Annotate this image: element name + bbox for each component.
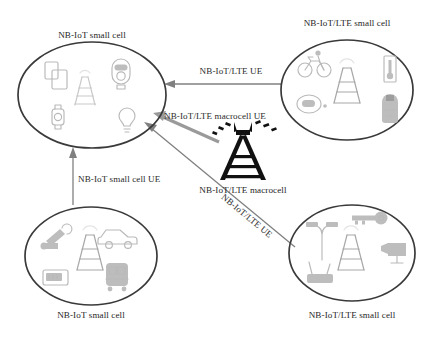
thermometer-icon	[384, 56, 396, 82]
cell-label-bottom-left: NB-IoT small cell	[57, 310, 125, 320]
security-camera-icon	[381, 243, 406, 263]
link-label-nb-iot-lte-ue-diagonal: NB-IoT/LTE UE	[220, 192, 275, 240]
car-key-fob-icon	[297, 95, 327, 113]
key-icon	[352, 212, 388, 225]
cell-label-top-right: NB-IoT/LTE small cell	[304, 18, 391, 28]
cell-tower-icon	[77, 226, 103, 270]
cell-tower-icon	[334, 59, 360, 103]
cell-top-right[interactable]: NB-IoT/LTE small cell	[281, 18, 413, 140]
cell-boundary-ellipse	[281, 40, 413, 140]
cell-boundary-ellipse	[25, 207, 157, 305]
parking-meter-icon	[112, 59, 130, 89]
light-bulb-icon	[119, 108, 135, 132]
street-lamp-icon	[306, 222, 338, 260]
train-icon	[106, 263, 128, 291]
cell-label-top-left: NB-IoT small cell	[58, 30, 126, 40]
cell-label-bottom-right: NB-IoT/LTE small cell	[309, 310, 396, 320]
link-macrocell-to-top-left: NB-IoT/LTE macrocell UE	[153, 111, 266, 143]
backpack-icon	[382, 94, 398, 123]
cell-top-left[interactable]: NB-IoT small cell	[18, 30, 166, 148]
link-label-nb-iot-lte-ue-top: NB-IoT/LTE UE	[200, 66, 263, 76]
tablet-screens-icon	[45, 62, 67, 89]
macrocell-label: NB-IoT/LTE macrocell	[199, 185, 287, 195]
cell-bottom-left[interactable]: NB-IoT small cell	[25, 207, 157, 320]
macrocell-tower-icon	[212, 120, 277, 180]
network-topology-diagram: NB-IoT/LTE UE NB-IoT/LTE macrocell UE NB…	[0, 0, 432, 337]
link-label-nb-iot-small-cell-ue: NB-IoT small cell UE	[78, 174, 161, 184]
link-bottom-left-to-top-left: NB-IoT small cell UE	[69, 147, 161, 205]
link-top-right-to-top-left: NB-IoT/LTE UE	[164, 66, 281, 88]
link-arrowhead	[69, 147, 77, 158]
cell-bottom-right[interactable]: NB-IoT/LTE small cell	[289, 205, 415, 320]
car-icon	[98, 230, 137, 248]
link-label-macrocell-ue: NB-IoT/LTE macrocell UE	[164, 111, 266, 121]
robot-arm-icon	[41, 224, 72, 249]
smart-meter-icon	[43, 270, 68, 285]
macrocell[interactable]: NB-IoT/LTE macrocell	[199, 120, 287, 195]
cell-tower-icon	[75, 70, 96, 105]
link-line-thick	[163, 117, 219, 142]
diagram-canvas: NB-IoT/LTE UE NB-IoT/LTE macrocell UE NB…	[0, 0, 432, 337]
bicycle-icon	[298, 50, 331, 77]
router-icon	[307, 262, 333, 283]
smartwatch-icon	[52, 105, 64, 129]
cell-tower-icon	[338, 226, 364, 270]
